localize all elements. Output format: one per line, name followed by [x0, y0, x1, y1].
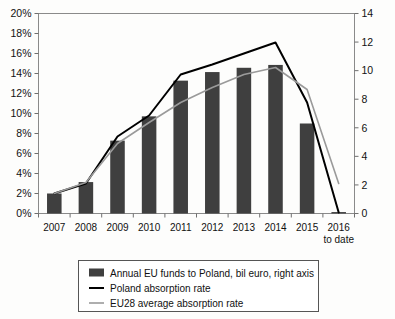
bar: [110, 141, 125, 214]
x-axis-tick-label: 2015: [296, 222, 319, 233]
right-axis-tick-label: 8: [362, 93, 368, 105]
right-axis-tick-label: 12: [362, 36, 374, 48]
chart-legend: Annual EU funds to Poland, bil euro, rig…: [79, 261, 319, 312]
left-axis-tick-label: 0%: [16, 207, 31, 219]
x-axis-tick-label: 2016: [328, 222, 351, 233]
x-axis-tick-label: 2009: [106, 222, 129, 233]
legend-label: Poland absorption rate: [110, 283, 211, 294]
left-axis-tick-label: 8%: [16, 127, 31, 139]
x-axis-tick-label-secondline: to date: [323, 234, 354, 245]
left-axis-tick-label: 2%: [16, 187, 31, 199]
x-axis-tick-label: 2007: [43, 222, 66, 233]
left-axis-tick-label: 14%: [10, 67, 31, 79]
right-axis-tick-label: 10: [362, 64, 374, 76]
bar: [47, 194, 62, 214]
left-axis-tick-label: 10%: [10, 107, 31, 119]
bar: [79, 182, 94, 213]
bar: [268, 65, 283, 214]
bar: [300, 124, 315, 214]
legend-label: EU28 average absorption rate: [110, 298, 244, 309]
bar: [237, 68, 252, 214]
x-axis-tick-label: 2011: [170, 222, 192, 233]
x-axis-tick-label: 2010: [138, 222, 161, 233]
bar: [142, 116, 157, 213]
bar: [205, 72, 220, 213]
left-axis-tick-label: 4%: [16, 167, 31, 179]
left-axis-tick-label: 20%: [10, 7, 31, 19]
left-axis-tick-label: 16%: [10, 47, 31, 59]
chart-figure: 0%2%4%6%8%10%12%14%16%18%20% 02468101214…: [0, 0, 395, 319]
right-axis-tick-label: 0: [362, 207, 368, 219]
right-axis-tick-label: 4: [362, 150, 368, 162]
legend-label: Annual EU funds to Poland, bil euro, rig…: [110, 268, 314, 279]
dual-axis-bar-line-chart: 0%2%4%6%8%10%12%14%16%18%20% 02468101214…: [0, 0, 395, 319]
x-axis-tick-label: 2014: [264, 222, 287, 233]
x-axis-tick-label: 2008: [75, 222, 98, 233]
x-axis-tick-label: 2013: [233, 222, 256, 233]
left-axis-tick-label: 18%: [10, 27, 31, 39]
x-axis-tick-label: 2012: [201, 222, 224, 233]
right-axis-tick-label: 2: [362, 179, 368, 191]
legend-swatch-bar: [89, 269, 104, 277]
left-axis-tick-label: 12%: [10, 87, 31, 99]
right-axis-tick-label: 6: [362, 122, 368, 134]
right-axis-tick-label: 14: [362, 7, 374, 19]
left-axis-tick-label: 6%: [16, 147, 31, 159]
